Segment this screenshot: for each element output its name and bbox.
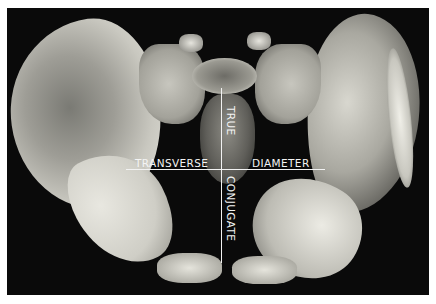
right-sacral-ala [255,44,321,124]
right-pubic-body [232,256,297,284]
transverse-label: TRANSVERSE [135,158,208,169]
right-articular-facet [247,32,271,50]
diameter-label: DIAMETER [252,158,310,169]
conjugate-label: CONJUGATE [226,176,237,241]
true-label: TRUE [226,106,237,136]
left-articular-facet [179,34,203,52]
sacral-promontory [192,58,257,94]
true-conjugate-line [221,88,222,263]
transverse-diameter-line [126,169,325,170]
pelvis-photograph: TRANSVERSE DIAMETER TRUE CONJUGATE [7,8,429,295]
left-pubic-body [157,253,222,283]
